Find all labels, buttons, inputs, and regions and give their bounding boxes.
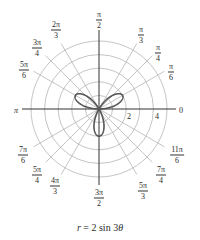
angle-label-denominator: 4 xyxy=(159,176,163,185)
grid-ray xyxy=(34,109,99,147)
angle-label-numerator: 11π xyxy=(170,146,184,156)
angle-label-denominator: 2 xyxy=(97,21,101,30)
angle-label-numerator: 3π xyxy=(32,39,42,49)
angle-label-numerator: 2π xyxy=(51,21,61,31)
caption-theta: θ xyxy=(118,222,123,233)
chart-caption: r = 2 sin 3θ xyxy=(0,222,200,233)
angle-label-denominator: 2 xyxy=(97,199,101,208)
angle-label: 4π3 xyxy=(50,177,60,196)
angle-label: π6 xyxy=(168,63,174,82)
grid-ray xyxy=(99,56,152,109)
angle-label-numerator: π xyxy=(138,26,144,36)
angle-label: π4 xyxy=(155,44,161,63)
angle-label: 5π4 xyxy=(32,166,42,185)
angle-label-numerator: π xyxy=(96,11,102,21)
angle-label-denominator: 3 xyxy=(139,36,143,45)
grid-ray xyxy=(46,109,99,162)
grid-ray xyxy=(61,109,99,174)
angle-label: π2 xyxy=(96,11,102,30)
angle-label-denominator: 4 xyxy=(156,54,160,63)
grid-ray xyxy=(61,44,99,109)
angle-label-numerator: 7π xyxy=(156,166,166,176)
angle-label-numerator: π xyxy=(155,44,161,54)
angle-label-numerator: 7π xyxy=(18,146,28,156)
grid-ray xyxy=(99,109,152,162)
angle-label-numerator: 5π xyxy=(19,61,29,71)
angle-label: π3 xyxy=(138,26,144,45)
angle-label: 7π4 xyxy=(156,166,166,185)
radial-tick-2: 2 xyxy=(127,112,131,121)
angle-label: 7π6 xyxy=(18,146,28,165)
angle-label-denominator: 6 xyxy=(175,156,179,165)
grid-ray xyxy=(46,56,99,109)
caption-rhs: = 2 sin 3 xyxy=(83,222,118,233)
angle-label: 3π2 xyxy=(94,189,104,208)
caption-r: r xyxy=(77,222,81,233)
angle-label-numerator: 3π xyxy=(94,189,104,199)
angle-label: 5π3 xyxy=(138,182,148,201)
angle-label: 2π3 xyxy=(51,21,61,40)
grid-ray xyxy=(99,109,137,174)
angle-label-denominator: 6 xyxy=(169,73,173,82)
grid-ray xyxy=(34,71,99,109)
grid-ray xyxy=(99,71,164,109)
axis-label-pi: π xyxy=(14,106,18,115)
angle-label-denominator: 3 xyxy=(53,187,57,196)
angle-label-denominator: 6 xyxy=(22,71,26,80)
angle-label: 3π4 xyxy=(32,39,42,58)
angle-label-numerator: π xyxy=(168,63,174,73)
angle-label-denominator: 4 xyxy=(35,176,39,185)
axis-label-zero: 0 xyxy=(179,106,183,115)
radial-tick-4: 4 xyxy=(155,112,159,121)
angle-label-numerator: 5π xyxy=(138,182,148,192)
angle-label-denominator: 4 xyxy=(35,49,39,58)
grid-ray xyxy=(99,44,137,109)
angle-label-denominator: 3 xyxy=(141,192,145,201)
angle-label-denominator: 6 xyxy=(21,156,25,165)
angle-label-denominator: 3 xyxy=(54,31,58,40)
angle-label-numerator: 4π xyxy=(50,177,60,187)
angle-label: 11π6 xyxy=(170,146,184,165)
angle-label: 5π6 xyxy=(19,61,29,80)
angle-label-numerator: 5π xyxy=(32,166,42,176)
